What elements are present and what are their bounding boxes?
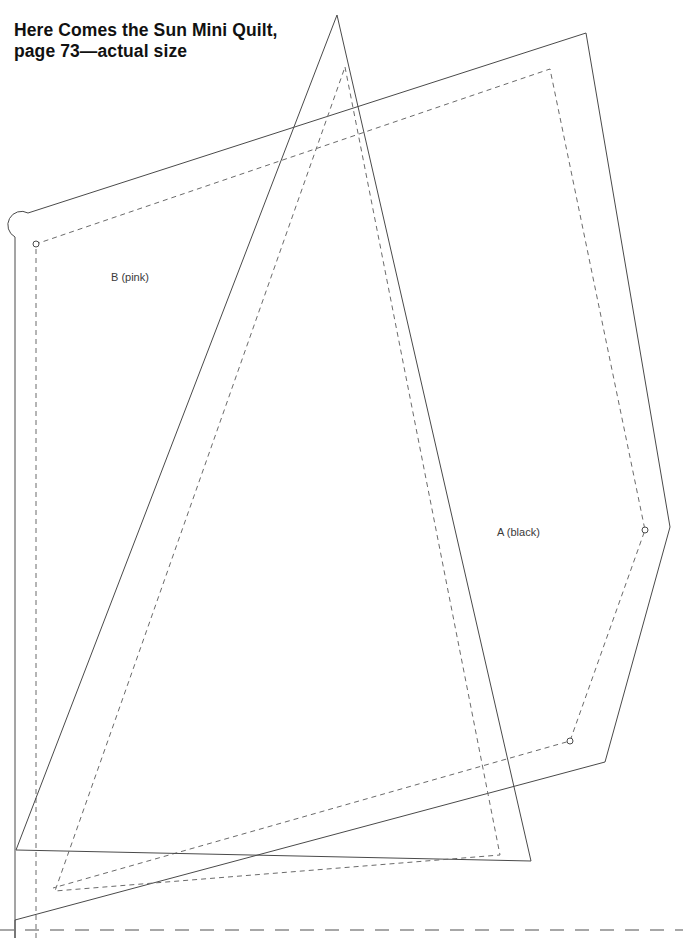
page-title: Here Comes the Sun Mini Quilt, page 73—a…: [14, 20, 414, 62]
corner-marker-icon: [33, 241, 39, 247]
piece-b-seam-line: [55, 67, 500, 891]
piece-b-group: [16, 15, 531, 891]
piece-a-label: A (black): [497, 526, 540, 538]
quilt-template-drawing: [0, 0, 683, 938]
corner-marker-icon: [642, 527, 648, 533]
corner-marker-icon: [567, 738, 573, 744]
piece-b-label: B (pink): [111, 271, 149, 283]
title-line-2: page 73—actual size: [14, 41, 414, 62]
piece-a-seam-line: [36, 69, 645, 938]
piece-a-cut-line: [8, 33, 670, 938]
title-line-1: Here Comes the Sun Mini Quilt,: [14, 20, 414, 41]
pattern-page: Here Comes the Sun Mini Quilt, page 73—a…: [0, 0, 683, 938]
piece-b-cut-line: [16, 15, 531, 861]
piece-a-group: [8, 33, 670, 938]
